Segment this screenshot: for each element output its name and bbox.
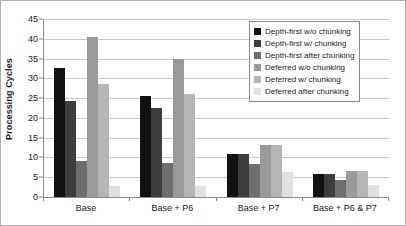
x-tick-label: Base [43, 203, 129, 219]
legend-item[interactable]: Depth-first w/ chunking [254, 38, 354, 49]
bar[interactable] [162, 163, 173, 197]
x-tick-mark [302, 197, 303, 201]
bar[interactable] [173, 59, 184, 197]
legend-swatch-icon [254, 40, 261, 47]
bar[interactable] [368, 185, 379, 197]
bar[interactable] [140, 96, 151, 197]
y-tick-label: 35 [28, 54, 38, 64]
x-tick-mark [388, 197, 389, 201]
bar-group [130, 19, 216, 197]
bar[interactable] [249, 164, 260, 197]
bar[interactable] [282, 172, 293, 197]
x-tick-mark [43, 197, 44, 201]
legend-label: Deferred w/o chunking [265, 63, 345, 72]
y-tick-label: 25 [28, 93, 38, 103]
legend-item[interactable]: Depth-first after chunking [254, 50, 354, 61]
y-tick-label: 10 [28, 152, 38, 162]
bar[interactable] [346, 171, 357, 198]
x-tick-mark [129, 197, 130, 201]
chart-legend: Depth-first w/o chunkingDepth-first w/ c… [249, 21, 360, 102]
x-tick-label: Base + P6 & P7 [302, 203, 388, 219]
y-tick-label: 45 [28, 14, 38, 24]
legend-swatch-icon [254, 88, 261, 95]
bar[interactable] [227, 154, 238, 198]
y-axis-tick-labels: 051015202530354045 [17, 1, 43, 203]
y-tick-label: 5 [33, 172, 38, 182]
legend-label: Deferred w/ chunking [265, 75, 341, 84]
y-tick-label: 20 [28, 113, 38, 123]
legend-label: Deferred after chunking [265, 87, 349, 96]
y-tick-label: 30 [28, 73, 38, 83]
bar[interactable] [313, 174, 324, 197]
bar[interactable] [76, 161, 87, 197]
legend-label: Depth-first after chunking [265, 51, 354, 60]
x-tick-mark [216, 197, 217, 201]
bar[interactable] [54, 68, 65, 197]
bar[interactable] [324, 174, 335, 197]
bar[interactable] [151, 108, 162, 197]
x-axis-tick-labels: BaseBase + P6Base + P7Base + P6 & P7 [43, 203, 388, 219]
bar[interactable] [357, 171, 368, 197]
legend-swatch-icon [254, 28, 261, 35]
legend-item[interactable]: Deferred w/o chunking [254, 62, 354, 73]
bar[interactable] [260, 145, 271, 197]
bar[interactable] [184, 94, 195, 197]
bar[interactable] [271, 145, 282, 197]
bar-group [44, 19, 130, 197]
x-axis-ticks [43, 197, 389, 202]
y-tick-label: 15 [28, 133, 38, 143]
bar[interactable] [238, 154, 249, 197]
bar[interactable] [335, 180, 346, 197]
bar[interactable] [87, 37, 98, 197]
y-axis-title: Processing Cycles [1, 1, 17, 197]
chart-container: Processing Cycles 051015202530354045 Bas… [0, 0, 406, 226]
bar[interactable] [65, 101, 76, 197]
legend-label: Depth-first w/o chunking [265, 27, 351, 36]
y-tick-label: 0 [33, 192, 38, 202]
x-tick-label: Base + P6 [129, 203, 215, 219]
bar[interactable] [109, 186, 120, 197]
bar[interactable] [195, 186, 206, 197]
x-tick-label: Base + P7 [216, 203, 302, 219]
legend-item[interactable]: Depth-first w/o chunking [254, 26, 354, 37]
bar[interactable] [98, 84, 109, 197]
legend-item[interactable]: Deferred after chunking [254, 86, 354, 97]
legend-swatch-icon [254, 64, 261, 71]
y-axis-title-label: Processing Cycles [4, 58, 14, 140]
legend-label: Depth-first w/ chunking [265, 39, 346, 48]
y-tick-label: 40 [28, 34, 38, 44]
legend-swatch-icon [254, 52, 261, 59]
legend-swatch-icon [254, 76, 261, 83]
legend-item[interactable]: Deferred w/ chunking [254, 74, 354, 85]
